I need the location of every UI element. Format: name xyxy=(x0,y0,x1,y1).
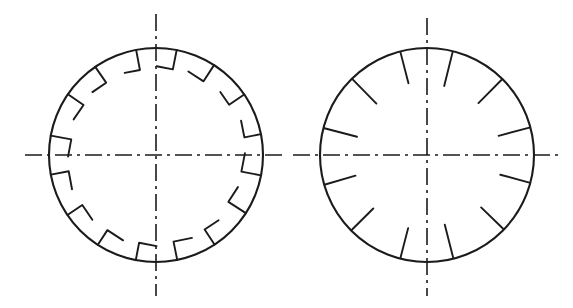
figure-root xyxy=(0,0,573,308)
technical-drawing-canvas xyxy=(0,0,573,308)
drawing-background xyxy=(0,0,573,308)
